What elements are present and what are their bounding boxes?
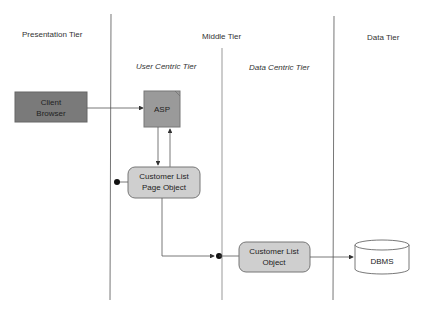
svg-text:DBMS: DBMS: [370, 257, 393, 266]
svg-text:Client: Client: [41, 98, 62, 107]
asp-node: ASP: [144, 91, 180, 127]
customer-list-object-node: Customer List Object: [239, 242, 310, 272]
svg-text:Customer List: Customer List: [249, 247, 299, 256]
client-browser-node: Client Browser: [15, 92, 87, 122]
svg-text:Object: Object: [262, 258, 286, 267]
page-object-interface-dot: [114, 179, 120, 185]
architecture-diagram: Client Browser ASP Customer List Page Ob…: [0, 0, 421, 313]
svg-text:Browser: Browser: [36, 109, 66, 118]
customer-list-page-object-node: Customer List Page Object: [128, 167, 200, 198]
svg-text:ASP: ASP: [154, 105, 170, 114]
divider-presentation-middle: [110, 14, 111, 300]
svg-text:Page Object: Page Object: [142, 183, 187, 192]
arrow-page-object-to-list-object: [162, 198, 214, 256]
svg-text:Customer List: Customer List: [139, 172, 189, 181]
dbms-node: DBMS: [355, 240, 409, 274]
